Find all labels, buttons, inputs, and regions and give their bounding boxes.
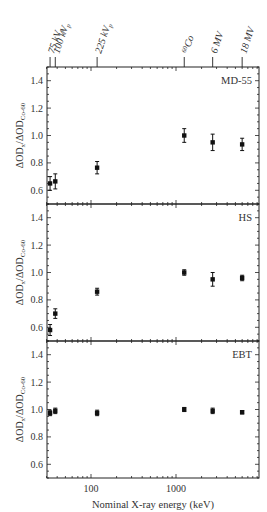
panel-md-55: 0.60.81.01.21.4MD-55ΔODx/ΔODCo-60 [14, 67, 259, 204]
source-label: 225 kVp [93, 21, 114, 55]
x-tick-label: 100 [84, 483, 99, 494]
data-point [210, 408, 214, 413]
data-point [210, 134, 214, 150]
y-tick-label: 1.4 [31, 75, 44, 86]
panel-label: EBT [232, 349, 252, 360]
figure: 0.60.81.01.21.4MD-55ΔODx/ΔODCo-600.60.81… [0, 0, 267, 512]
y-axis-title: ΔODx/ΔODCo-60 [14, 239, 27, 305]
panel-frame [47, 204, 259, 341]
data-point [182, 407, 186, 411]
data-point [48, 177, 52, 191]
panel-frame [47, 67, 259, 204]
panel-hs: 0.60.81.01.21.4HSΔODx/ΔODCo-60 [14, 204, 259, 341]
source-label: 60Co [180, 34, 196, 55]
y-tick-label: 0.6 [31, 185, 44, 196]
source-label: 6 MV [208, 29, 226, 55]
y-tick-label: 1.2 [31, 240, 44, 251]
y-axis-title: ΔODx/ΔODCo-60 [14, 376, 27, 442]
y-tick-label: 0.6 [31, 322, 44, 333]
y-tick-label: 1.0 [31, 267, 44, 278]
panel-frame [47, 341, 259, 478]
y-tick-label: 0.6 [31, 459, 44, 470]
y-tick-label: 1.0 [31, 130, 44, 141]
y-tick-label: 0.8 [31, 294, 44, 305]
chart-svg: 0.60.81.01.21.4MD-55ΔODx/ΔODCo-600.60.81… [0, 0, 267, 512]
data-point [53, 309, 57, 319]
data-point [53, 408, 57, 413]
data-point [182, 129, 186, 143]
y-tick-label: 0.8 [31, 157, 44, 168]
x-tick-label: 1000 [166, 483, 186, 494]
panel-label: MD-55 [221, 75, 252, 86]
data-point [53, 174, 57, 189]
data-point [210, 273, 214, 287]
data-point [95, 410, 99, 415]
data-point [48, 410, 52, 415]
y-tick-label: 0.8 [31, 431, 44, 442]
y-tick-label: 1.0 [31, 404, 44, 415]
source-label: 18 MV [238, 24, 257, 55]
y-tick-label: 1.2 [31, 103, 44, 114]
y-tick-label: 1.4 [31, 349, 44, 360]
y-tick-label: 1.2 [31, 377, 44, 388]
y-axis-title: ΔODx/ΔODCo-60 [14, 102, 27, 168]
data-point [95, 162, 99, 174]
panel-label: HS [239, 212, 253, 223]
data-point [182, 270, 186, 275]
x-axis-title: Nominal X-ray energy (keV) [92, 499, 214, 511]
data-point [95, 288, 99, 295]
panel-ebt: 0.60.81.01.21.4EBTΔODx/ΔODCo-60 [14, 341, 259, 478]
data-point [240, 410, 244, 414]
data-point [240, 138, 244, 150]
y-tick-label: 1.4 [31, 212, 44, 223]
data-point [240, 275, 244, 280]
